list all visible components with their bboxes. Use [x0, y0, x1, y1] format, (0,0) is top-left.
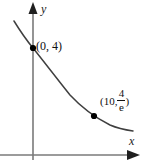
coordinate-plot — [0, 0, 145, 165]
point-label-0-4: (0, 4) — [36, 40, 62, 52]
y-axis-arrow-icon — [29, 2, 38, 14]
point-marker-10-4-over-e — [91, 113, 97, 119]
fraction-denominator: e — [118, 102, 125, 113]
x-axis-arrow-icon — [127, 150, 140, 160]
x-axis-label: x — [129, 135, 134, 147]
graph-figure: y x (0, 4) (10, 4 e ) — [0, 0, 145, 165]
fraction-numerator: 4 — [118, 88, 126, 99]
exponential-curve — [14, 21, 133, 131]
y-axis-label: y — [41, 3, 46, 15]
point-label-suffix: ) — [125, 96, 129, 107]
point-label-10-4-over-e: (10, 4 e ) — [100, 89, 129, 114]
fraction-4-over-e: 4 e — [117, 88, 125, 113]
point-label-prefix: (10, — [100, 96, 117, 107]
